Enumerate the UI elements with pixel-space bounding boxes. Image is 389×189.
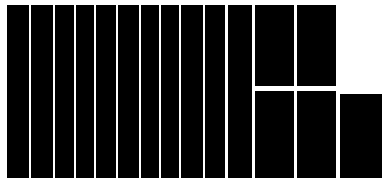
treemap-tile[interactable] [181, 5, 203, 178]
treemap-tile[interactable] [161, 5, 179, 178]
treemap-tile[interactable] [76, 5, 94, 178]
treemap-tile[interactable] [55, 5, 74, 178]
treemap-tile[interactable] [7, 5, 29, 178]
treemap-tile[interactable] [205, 5, 225, 178]
treemap-tile[interactable] [297, 91, 336, 178]
treemap-tile[interactable] [255, 91, 294, 178]
treemap-tile[interactable] [297, 5, 336, 86]
treemap-tile[interactable] [141, 5, 159, 178]
treemap-tile[interactable] [31, 5, 53, 178]
treemap-tile[interactable] [255, 5, 294, 86]
treemap-chart [0, 0, 389, 189]
treemap-tile[interactable] [96, 5, 116, 178]
treemap-tile[interactable] [118, 5, 139, 178]
treemap-tile[interactable] [340, 94, 382, 178]
treemap-tile[interactable] [228, 5, 252, 178]
